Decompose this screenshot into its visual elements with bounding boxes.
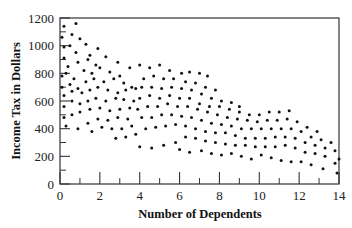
data-point — [180, 72, 183, 75]
data-point — [86, 122, 89, 125]
data-point — [228, 108, 231, 111]
y-axis-title: Income Tax in Dollars — [9, 42, 23, 160]
data-point — [306, 126, 309, 129]
data-point — [116, 116, 119, 119]
data-point — [204, 130, 207, 133]
data-point — [174, 123, 177, 126]
data-point — [102, 80, 105, 83]
data-point — [68, 83, 71, 86]
data-point — [62, 46, 65, 49]
data-point — [126, 117, 129, 120]
data-point — [88, 88, 91, 91]
data-point — [160, 113, 163, 116]
data-point — [74, 51, 77, 54]
data-point — [156, 105, 159, 108]
data-point — [258, 113, 261, 116]
data-point — [124, 135, 127, 138]
data-point — [300, 160, 303, 163]
data-point — [310, 163, 313, 166]
data-point — [216, 113, 219, 116]
x-tick-label: 0 — [57, 188, 64, 203]
data-point — [122, 98, 125, 101]
data-point — [336, 171, 339, 174]
data-point — [264, 137, 267, 140]
data-point — [210, 152, 213, 155]
data-point — [334, 162, 337, 165]
data-point — [134, 133, 137, 136]
data-point — [62, 105, 65, 108]
data-point — [294, 147, 297, 150]
data-point — [138, 145, 141, 148]
data-point — [88, 108, 91, 111]
data-point — [322, 167, 325, 170]
data-point — [314, 144, 317, 147]
data-point — [286, 117, 289, 120]
data-point — [300, 130, 303, 133]
data-point — [150, 86, 153, 89]
data-point — [188, 151, 191, 154]
data-point — [72, 77, 75, 80]
data-point — [304, 151, 307, 154]
data-point — [172, 77, 175, 80]
data-point — [324, 147, 327, 150]
data-point — [162, 144, 165, 147]
data-point — [288, 109, 291, 112]
data-point — [108, 70, 111, 73]
data-point — [114, 97, 117, 100]
data-point — [130, 124, 133, 127]
data-point — [296, 120, 299, 123]
data-point — [116, 61, 119, 64]
data-point — [276, 119, 279, 122]
data-point — [60, 36, 63, 39]
data-point — [188, 70, 191, 73]
data-point — [284, 135, 287, 138]
data-point — [268, 111, 271, 114]
data-point — [190, 88, 193, 91]
data-point — [148, 66, 151, 69]
data-point — [320, 138, 323, 141]
data-point — [290, 160, 293, 163]
data-point — [164, 124, 167, 127]
scatter-chart: 020040060080010001200 02468101214 Income… — [0, 0, 352, 228]
data-points — [60, 22, 340, 174]
data-point — [260, 153, 263, 156]
data-point — [338, 158, 341, 161]
data-point — [62, 116, 65, 119]
data-point — [170, 86, 173, 89]
data-point — [188, 97, 191, 100]
data-point — [176, 105, 179, 108]
data-point — [118, 108, 121, 111]
data-point — [238, 105, 241, 108]
data-point — [220, 100, 223, 103]
data-point — [150, 147, 153, 150]
data-point — [62, 57, 65, 60]
x-axis: 02468101214 — [57, 172, 346, 203]
data-point — [64, 72, 67, 75]
y-tick-label: 200 — [35, 149, 55, 164]
data-point — [84, 80, 87, 83]
data-point — [324, 155, 327, 158]
data-point — [220, 123, 223, 126]
data-point — [278, 111, 281, 114]
data-point — [60, 86, 63, 89]
data-point — [122, 82, 125, 85]
data-point — [158, 64, 161, 67]
y-axis: 020040060080010001200 — [28, 11, 70, 192]
data-point — [148, 94, 151, 97]
data-point — [140, 116, 143, 119]
data-point — [154, 126, 157, 129]
data-point — [200, 149, 203, 152]
data-point — [190, 116, 193, 119]
y-tick-label: 600 — [35, 94, 55, 109]
data-point — [208, 105, 211, 108]
data-point — [206, 111, 209, 114]
data-point — [214, 131, 217, 134]
data-point — [136, 108, 139, 111]
data-point — [240, 155, 243, 158]
data-point — [180, 87, 183, 90]
data-point — [210, 122, 213, 125]
data-point — [234, 134, 237, 137]
plot-frame — [60, 18, 339, 184]
data-point — [178, 97, 181, 100]
data-point — [168, 69, 171, 72]
